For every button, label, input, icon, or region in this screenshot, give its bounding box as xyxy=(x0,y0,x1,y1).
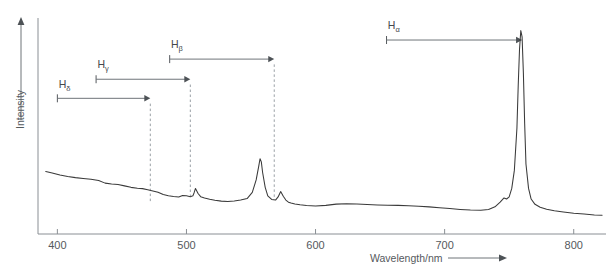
x-tick-label: 500 xyxy=(177,239,195,251)
annotation-label-h-delta: Hδ xyxy=(59,78,71,93)
spectrum-chart: Intensity 400500600700800 Wavelength/nm … xyxy=(0,0,616,276)
annotation-label-h-gamma: Hγ xyxy=(97,58,109,73)
x-tick-label: 700 xyxy=(435,239,453,251)
x-axis-arrow xyxy=(448,255,507,262)
annotation-h-beta: Hβ xyxy=(170,38,275,63)
annotation-arrow-head xyxy=(516,37,522,43)
annotation-h-gamma: Hγ xyxy=(96,58,190,83)
annotation-label-h-alpha: Hα xyxy=(388,19,401,34)
x-tick-label: 600 xyxy=(306,239,324,251)
x-tick-label: 800 xyxy=(565,239,583,251)
x-axis-ticks: 400500600700800 xyxy=(48,229,583,251)
annotation-arrow-head xyxy=(268,56,274,62)
annotation-h-alpha: Hα xyxy=(387,19,523,44)
annotation-arrow-head xyxy=(144,95,150,101)
x-axis-title: Wavelength/nm xyxy=(370,252,443,264)
series-annotations: HδHγHβHα xyxy=(57,19,522,103)
annotation-arrow-head xyxy=(184,76,190,82)
spectrum-line xyxy=(46,30,602,215)
spectrum-trace xyxy=(46,30,602,215)
annotation-h-delta: Hδ xyxy=(57,78,150,103)
annotation-label-h-beta: Hβ xyxy=(171,38,184,53)
x-tick-label: 400 xyxy=(48,239,66,251)
y-axis-title: Intensity xyxy=(14,89,26,129)
spectrum-figure: Intensity 400500600700800 Wavelength/nm … xyxy=(0,0,616,276)
